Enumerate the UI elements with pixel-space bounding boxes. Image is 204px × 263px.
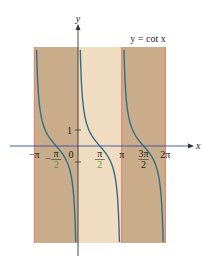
cot-chart: 1−π−π20π2π3π22π y = cot x x y <box>0 0 204 263</box>
x-tick-label-4: π <box>119 149 124 160</box>
x-tick-label-0: −π <box>29 149 40 160</box>
x-tick-den-3: 2 <box>97 159 102 170</box>
x-tick-num-3: π <box>97 148 102 159</box>
x-tick-num-1: π <box>54 148 59 159</box>
y-axis-label: y <box>75 13 81 24</box>
x-tick-den-5: 2 <box>141 159 146 170</box>
x-axis-label: x <box>195 140 201 151</box>
y-tick-label-0: 1 <box>67 125 72 136</box>
x-tick-den-1: 2 <box>54 159 59 170</box>
y-axis-arrow-icon <box>76 24 81 30</box>
x-tick-label-2: 0 <box>69 149 74 160</box>
x-tick-label-6: 2π <box>160 149 170 160</box>
chart-title: y = cot x <box>130 33 165 44</box>
x-tick-num-5: 3π <box>139 148 149 159</box>
x-tick-sign-1: − <box>45 153 51 164</box>
x-axis-arrow-icon <box>188 144 194 149</box>
